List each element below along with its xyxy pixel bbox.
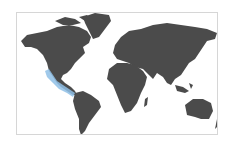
madagascar: [144, 97, 148, 107]
new-zealand: [215, 117, 218, 129]
southeast-asia-islands: [175, 83, 193, 93]
world-map: [16, 12, 218, 135]
continent-australia: [185, 99, 213, 119]
continent-africa: [107, 63, 147, 113]
world-map-svg: [17, 13, 218, 135]
continent-south-america: [73, 91, 101, 135]
